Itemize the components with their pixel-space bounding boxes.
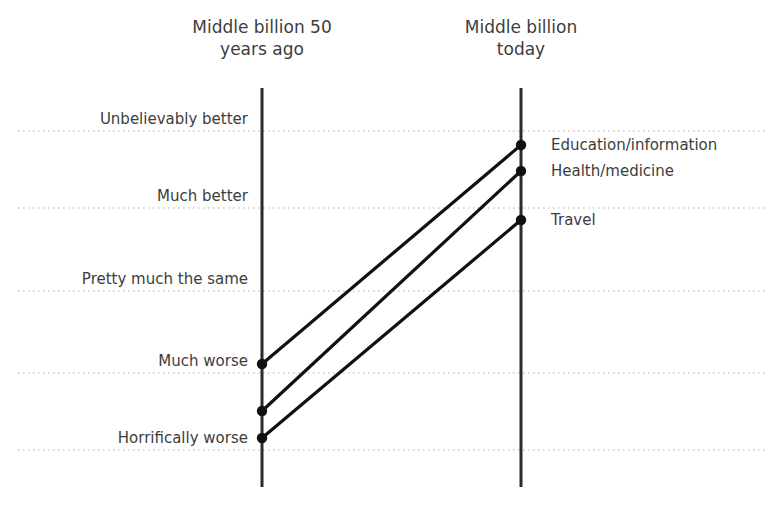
y-scale-label-2: Pretty much the same (10, 270, 248, 288)
marker-end-1 (516, 166, 526, 176)
axes-group (262, 88, 521, 487)
y-scale-label-3: Much worse (10, 352, 248, 370)
marker-start-0 (257, 359, 267, 369)
marker-start-2 (257, 433, 267, 443)
slope-line-1 (262, 171, 521, 411)
y-scale-label-1: Much better (10, 187, 248, 205)
y-scale-label-0: Unbelievably better (10, 110, 248, 128)
marker-end-0 (516, 140, 526, 150)
slope-chart: Middle billion 50 years ago Middle billi… (0, 0, 773, 522)
series-lines-group (262, 145, 521, 438)
marker-start-1 (257, 406, 267, 416)
series-label-1: Health/medicine (551, 162, 674, 180)
column-title-left: Middle billion 50 years ago (132, 16, 392, 60)
y-scale-label-4: Horrifically worse (10, 429, 248, 447)
series-label-2: Travel (551, 211, 596, 229)
marker-end-2 (516, 215, 526, 225)
series-label-0: Education/information (551, 136, 717, 154)
column-title-right: Middle billion today (391, 16, 651, 60)
